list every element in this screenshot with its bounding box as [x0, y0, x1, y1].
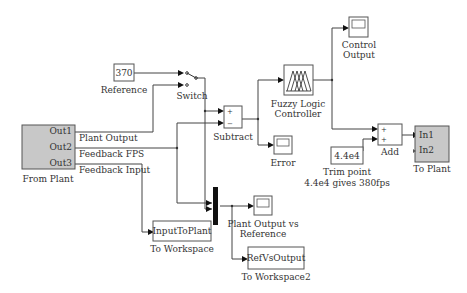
- port-out3: Out3: [49, 158, 72, 168]
- from-plant-label: From Plant: [22, 174, 73, 184]
- from-plant-block[interactable]: Out1 Out2 Out3 From Plant: [22, 125, 75, 184]
- port-out1: Out1: [49, 126, 72, 136]
- error-scope-block[interactable]: Error: [271, 136, 297, 168]
- scope-icon: [277, 139, 289, 146]
- control-output-label-line1: Control: [342, 40, 376, 50]
- mux-block[interactable]: [213, 187, 218, 225]
- subtract-label: Subtract: [213, 132, 253, 142]
- add-sign-2: +: [381, 136, 387, 144]
- control-output-scope-block[interactable]: Control Output: [342, 17, 376, 60]
- port-in1: In1: [419, 130, 434, 140]
- to-plant-label: To Plant: [413, 164, 451, 174]
- wire-fps-mux: [177, 123, 212, 203]
- signal-plant-output: Plant Output: [79, 133, 138, 143]
- scope-icon: [352, 20, 365, 28]
- fuzzy-label-line1: Fuzzy Logic: [271, 99, 326, 109]
- subtract-sign-plus: +: [227, 108, 233, 116]
- plant-output-vs-reference-scope-block[interactable]: Plant Output vs Reference: [227, 196, 298, 239]
- trim-label-line2: 4.4e4 gives 380fps: [304, 178, 390, 188]
- ref-vs-output-label: To Workspace2: [241, 272, 310, 282]
- signal-feedback-input: Feedback Input: [79, 165, 151, 175]
- input-to-plant-workspace-block[interactable]: InputToPlant To Workspace: [150, 221, 214, 254]
- wire-fuzzy-scope: [313, 28, 343, 80]
- trim-label-line1: Trim point: [323, 167, 371, 177]
- port-out2: Out2: [49, 142, 72, 152]
- add-block[interactable]: + + Add: [378, 124, 402, 157]
- control-output-label-line2: Output: [343, 50, 375, 60]
- to-plant-block[interactable]: In1 In2 To Plant: [413, 126, 451, 174]
- trim-value: 4.4e4: [334, 151, 360, 161]
- plant-vs-ref-label-line2: Reference: [240, 229, 287, 239]
- subtract-sign-minus: −: [227, 120, 233, 128]
- switch-icon: [187, 73, 196, 78]
- plant-vs-ref-label-line1: Plant Output vs: [227, 219, 298, 229]
- fuzzy-label-line2: Controller: [275, 109, 323, 119]
- wire-trim-add: [363, 139, 372, 151]
- mux-bar: [213, 187, 218, 225]
- error-label: Error: [271, 158, 297, 168]
- ref-vs-output-value: RefVsOutput: [247, 253, 306, 263]
- port-in2: In2: [419, 145, 434, 155]
- reference-value: 370: [115, 68, 132, 78]
- trim-point-constant-block[interactable]: 4.4e4 Trim point 4.4e4 gives 380fps: [304, 147, 390, 188]
- input-to-plant-value: InputToPlant: [153, 226, 212, 236]
- reference-constant-block[interactable]: 370 Reference: [101, 64, 148, 95]
- add-sign-1: +: [381, 126, 387, 134]
- reference-label: Reference: [101, 85, 148, 95]
- input-to-plant-label: To Workspace: [150, 244, 214, 254]
- wire-subtract-error: [258, 119, 268, 145]
- scope-icon: [257, 199, 269, 207]
- simulink-diagram: Out1 Out2 Out3 From Plant Plant Output F…: [0, 0, 467, 293]
- switch-label: Switch: [176, 91, 207, 101]
- signal-feedback-fps: Feedback FPS: [79, 149, 144, 159]
- ref-vs-output-workspace-block[interactable]: RefVsOutput To Workspace2: [241, 247, 310, 282]
- add-label: Add: [380, 147, 399, 157]
- fuzzy-logic-controller-block[interactable]: Fuzzy Logic Controller: [271, 65, 326, 119]
- wire-fuzzy-add: [332, 80, 372, 129]
